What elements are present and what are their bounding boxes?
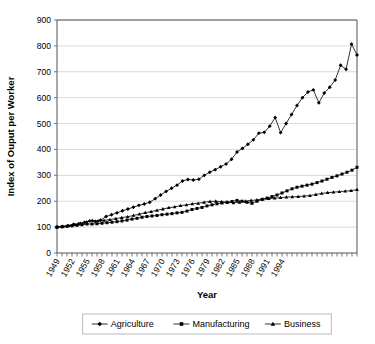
legend-label-manufacturing: Manufacturing — [193, 319, 250, 329]
marker-square — [131, 218, 134, 221]
marker-diamond — [97, 322, 102, 327]
marker-diamond — [115, 211, 119, 215]
marker-square — [101, 222, 104, 225]
x-tick-label-1982: 1982 — [209, 257, 227, 279]
marker-diamond — [137, 203, 141, 207]
marker-diamond — [208, 170, 212, 174]
marker-square — [336, 174, 339, 177]
y-tick-label-700: 700 — [37, 67, 51, 77]
marker-diamond — [142, 202, 146, 206]
marker-square — [276, 194, 279, 197]
marker-triangle — [355, 188, 359, 191]
marker-square — [291, 187, 294, 190]
marker-square — [136, 217, 139, 220]
x-tick-label-1973: 1973 — [164, 257, 182, 279]
marker-square — [96, 222, 99, 225]
marker-square — [211, 203, 214, 206]
marker-square — [161, 213, 164, 216]
marker-square — [181, 211, 184, 214]
x-tick-label-1988: 1988 — [239, 257, 257, 279]
marker-square — [126, 219, 129, 222]
marker-diamond — [317, 101, 321, 105]
marker-diamond — [355, 53, 359, 57]
x-tick-label-1970: 1970 — [149, 257, 167, 279]
x-tick-label-1967: 1967 — [134, 257, 152, 279]
marker-square — [146, 215, 149, 218]
marker-diamond — [186, 178, 190, 182]
marker-square — [201, 206, 204, 209]
y-tick-label-900: 900 — [37, 15, 51, 25]
marker-square — [176, 211, 179, 214]
marker-square — [196, 207, 199, 210]
marker-square — [286, 189, 289, 192]
marker-diamond — [273, 116, 277, 120]
series-line-manufacturing — [57, 167, 357, 227]
marker-square — [186, 210, 189, 213]
x-tick-labels-group: 1949195219551958196119641967197019731976… — [44, 257, 287, 279]
legend: AgricultureManufacturingBusiness — [83, 314, 332, 334]
y-tick-label-200: 200 — [37, 196, 51, 206]
marker-diamond — [213, 168, 217, 172]
marker-square — [311, 183, 314, 186]
marker-square — [191, 208, 194, 211]
marker-diamond — [290, 113, 294, 117]
marker-diamond — [121, 209, 125, 213]
y-tick-label-400: 400 — [37, 144, 51, 154]
marker-square — [251, 202, 254, 205]
marker-square — [141, 216, 144, 219]
series-line-business — [57, 190, 357, 228]
marker-square — [116, 220, 119, 223]
y-tick-label-500: 500 — [37, 119, 51, 129]
y-tick-label-300: 300 — [37, 170, 51, 180]
x-tick-label-1979: 1979 — [194, 257, 212, 279]
marker-square — [121, 219, 124, 222]
y-tick-label-100: 100 — [37, 222, 51, 232]
x-tick-label-1961: 1961 — [104, 257, 122, 279]
marker-square — [351, 169, 354, 172]
legend-item-agriculture[interactable]: Agriculture — [92, 319, 154, 329]
x-tick-label-1991: 1991 — [254, 257, 272, 279]
marker-square — [341, 173, 344, 176]
marker-square — [281, 191, 284, 194]
legend-item-manufacturing[interactable]: Manufacturing — [174, 319, 250, 329]
x-tick-label-1964: 1964 — [119, 257, 137, 279]
marker-diamond — [350, 42, 354, 46]
marker-diamond — [191, 178, 195, 182]
legend-item-business[interactable]: Business — [265, 319, 321, 329]
legend-label-business: Business — [284, 319, 321, 329]
marker-square — [216, 202, 219, 205]
marker-diamond — [284, 122, 288, 126]
y-tick-label-800: 800 — [37, 41, 51, 51]
marker-square — [296, 186, 299, 189]
x-tick-label-1958: 1958 — [89, 257, 107, 279]
axes-group — [57, 20, 357, 257]
marker-square — [111, 221, 114, 224]
x-tick-label-1952: 1952 — [59, 257, 77, 279]
line-chart: 0100200300400500600700800900194919521955… — [0, 0, 375, 344]
marker-square — [91, 223, 94, 226]
marker-square — [301, 185, 304, 188]
marker-diamond — [219, 165, 223, 169]
x-tick-label-1985: 1985 — [224, 257, 242, 279]
marker-square — [356, 166, 359, 169]
marker-square — [321, 180, 324, 183]
marker-square — [236, 199, 239, 202]
y-tick-label-600: 600 — [37, 93, 51, 103]
x-tick-label-1976: 1976 — [179, 257, 197, 279]
marker-square — [156, 214, 159, 217]
x-tick-label-1949: 1949 — [44, 257, 62, 279]
marker-square — [316, 181, 319, 184]
marker-square — [331, 176, 334, 179]
x-axis-title: Year — [197, 289, 217, 300]
marker-square — [171, 212, 174, 215]
chart-container: 0100200300400500600700800900194919521955… — [0, 0, 375, 344]
x-tick-label-1994: 1994 — [269, 257, 287, 279]
marker-square — [106, 221, 109, 224]
marker-diamond — [311, 88, 315, 92]
marker-square — [271, 195, 274, 198]
marker-square — [151, 214, 154, 217]
marker-square — [306, 184, 309, 187]
marker-square — [346, 171, 349, 174]
y-axis-title: Index of Ouput per Worker — [5, 76, 16, 196]
marker-square — [206, 204, 209, 207]
